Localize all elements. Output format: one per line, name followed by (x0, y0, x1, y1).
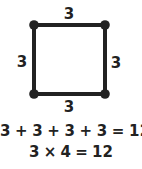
vertex-bottom-left (29, 89, 39, 99)
square-edges (34, 25, 105, 94)
edge-label-right: 3 (111, 54, 121, 72)
equation-repeated-addition: 3 + 3 + 3 + 3 = 12 (0, 122, 142, 140)
square-vertices (29, 20, 110, 99)
vertex-top-left (29, 20, 39, 30)
edge-label-left: 3 (17, 53, 27, 71)
equation-multiplication: 3 × 4 = 12 (0, 143, 142, 161)
vertex-bottom-right (100, 89, 110, 99)
edge-label-top: 3 (64, 5, 74, 23)
vertex-top-right (100, 20, 110, 30)
edge-label-bottom: 3 (64, 98, 74, 116)
